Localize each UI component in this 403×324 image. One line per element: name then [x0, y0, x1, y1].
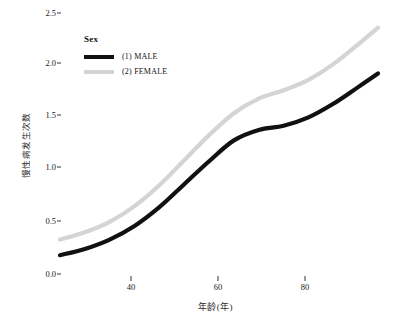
x-axis-ticks	[131, 276, 305, 281]
x-tick-label: 40	[116, 282, 146, 292]
y-axis-label-container: 慢性病发生次数	[14, 0, 36, 290]
chart-container: 2.5 2.0 1.5 1.0 0.5 0.0 40 60 80 慢性病发生次数…	[0, 0, 403, 324]
x-axis-label: 年龄(年)	[0, 300, 403, 313]
line-series-male	[60, 74, 378, 256]
legend-item-female: (2) FEMALE	[84, 65, 167, 78]
y-axis-ticks	[57, 13, 61, 274]
legend-swatch-male-icon	[84, 55, 114, 59]
y-axis-label: 慢性病发生次数	[19, 112, 31, 178]
legend-title: Sex	[84, 34, 167, 44]
x-tick-label: 80	[290, 282, 320, 292]
legend-label-male: (1) MALE	[122, 52, 158, 61]
legend-label-female: (2) FEMALE	[122, 67, 167, 76]
x-tick-label: 60	[203, 282, 233, 292]
legend-item-male: (1) MALE	[84, 50, 167, 63]
legend-swatch-female-icon	[84, 70, 114, 74]
legend: Sex (1) MALE (2) FEMALE	[84, 34, 167, 80]
plot-area	[0, 0, 403, 324]
